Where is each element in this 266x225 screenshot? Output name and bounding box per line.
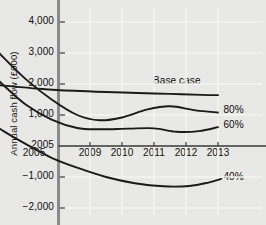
series-lines [0,37,221,187]
grid-lines [60,8,262,216]
chart-container: Annual cash flow (£000) 4,0003,0002,0001… [0,0,266,225]
plot-area [0,0,266,225]
